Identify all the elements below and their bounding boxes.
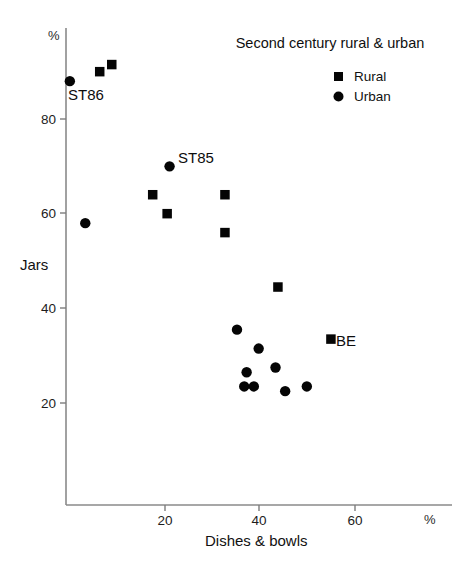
x-axis-title: Dishes & bowls [205, 532, 308, 549]
chart-title: Second century rural & urban [236, 35, 425, 51]
y-tick-label-40: 40 [41, 301, 56, 316]
annotation-be: BE [336, 332, 356, 349]
x-tick-label-20: 20 [157, 513, 172, 528]
data-points-group [65, 60, 336, 397]
scatter-chart: 80 60 40 20 % Jars 20 40 60 % Dishes & b… [0, 0, 474, 562]
data-point-rural [148, 190, 158, 200]
data-point-urban [253, 343, 263, 353]
y-tick-label-20: 20 [41, 396, 56, 411]
data-point-rural [107, 60, 117, 70]
y-axis-title: Jars [20, 256, 48, 273]
y-axis-unit-label: % [48, 28, 60, 43]
data-point-rural [326, 334, 336, 344]
annotation-st86: ST86 [68, 86, 104, 103]
legend-marker-rural-square-icon [334, 72, 343, 81]
data-point-urban [232, 324, 242, 334]
data-point-urban [302, 381, 312, 391]
data-point-rural [95, 67, 105, 77]
data-point-urban [65, 76, 75, 86]
data-point-rural [162, 209, 172, 219]
legend-marker-urban-circle-icon [334, 92, 344, 102]
data-point-urban [280, 386, 290, 396]
legend: Rural Urban [334, 69, 391, 104]
data-point-urban [80, 218, 90, 228]
legend-label-urban: Urban [354, 89, 391, 104]
y-tick-label-80: 80 [41, 112, 56, 127]
annotation-st85: ST85 [178, 149, 214, 166]
x-tick-label-40: 40 [251, 513, 266, 528]
data-point-urban [164, 161, 174, 171]
x-tick-label-60: 60 [347, 513, 362, 528]
data-point-rural [220, 190, 230, 200]
legend-label-rural: Rural [354, 69, 386, 84]
data-point-urban [241, 367, 251, 377]
y-tick-label-60: 60 [41, 206, 56, 221]
plot-area: 80 60 40 20 % Jars 20 40 60 % Dishes & b… [0, 0, 474, 562]
x-axis-unit-label: % [424, 512, 436, 527]
data-point-rural [220, 228, 230, 238]
data-point-urban [270, 362, 280, 372]
data-point-urban [249, 381, 259, 391]
data-point-rural [273, 282, 283, 292]
data-point-urban [239, 381, 249, 391]
